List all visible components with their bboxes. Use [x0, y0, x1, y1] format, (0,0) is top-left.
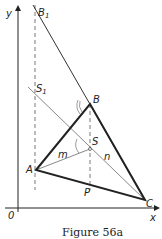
geometry-diagram: y x 0 B1 S1 B A C S P m n Figure 56a: [0, 0, 162, 239]
label-x: x: [149, 212, 156, 223]
label-S1: S1: [36, 83, 47, 96]
label-origin: 0: [8, 210, 14, 221]
label-B1: B1: [38, 7, 49, 20]
label-S: S: [92, 136, 99, 147]
label-y: y: [5, 8, 13, 19]
label-B: B: [93, 94, 100, 105]
label-A: A: [25, 164, 33, 175]
label-m: m: [58, 149, 68, 160]
label-C: C: [146, 198, 153, 209]
point-S: [89, 148, 92, 151]
label-n: n: [104, 151, 110, 162]
label-P: P: [84, 187, 91, 198]
figure-caption: Figure 56a: [62, 226, 124, 239]
angle-arc-S: [76, 139, 79, 153]
angle-arc-B: [79, 101, 82, 112]
triangle-ABC: [36, 104, 145, 200]
